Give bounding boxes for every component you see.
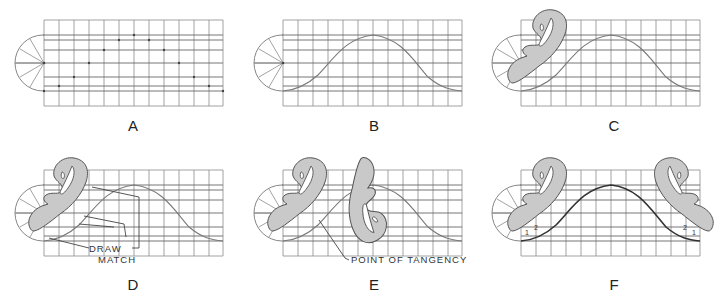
- french-curve-right: [655, 158, 714, 231]
- panel-label-b: B: [369, 117, 379, 134]
- french-curve: [29, 158, 88, 231]
- mark-2-left: 2: [534, 224, 538, 231]
- french-curve-left: [508, 158, 567, 231]
- callout-point-of-tangency: POINT OF TANGENCY: [351, 254, 467, 265]
- mark-1-left: 1: [525, 229, 529, 236]
- callout-match: MATCH: [98, 254, 136, 265]
- callout-draw: DRAW: [89, 243, 122, 254]
- figure-canvas: A B C DRAW MATCH D POINT OF TANGENCY E: [0, 0, 721, 302]
- panel-d: [15, 158, 223, 256]
- panel-e: [254, 155, 462, 260]
- panel-label-a: A: [128, 117, 138, 134]
- panel-b: [254, 20, 462, 106]
- panel-a: [15, 20, 224, 106]
- panel-label-c: C: [609, 117, 620, 134]
- french-curve-rotated: [320, 155, 412, 249]
- mark-1-right: 1: [692, 229, 696, 236]
- panel-label-f: F: [609, 276, 618, 293]
- french-curve: [508, 10, 567, 83]
- mark-2-right: 2: [683, 224, 687, 231]
- french-curve-left: [268, 158, 327, 231]
- panel-label-d: D: [128, 276, 139, 293]
- panel-f: 1 2 2 1: [492, 158, 713, 256]
- panel-c: [492, 10, 700, 106]
- panel-label-e: E: [369, 276, 379, 293]
